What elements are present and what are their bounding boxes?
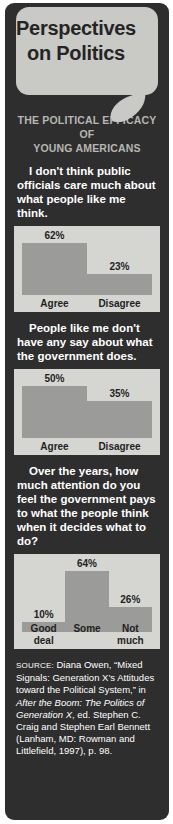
chart-1-bar-group-0: 62% xyxy=(22,230,87,295)
chart-3-axis-label-2: Not much xyxy=(109,623,152,647)
chart-2-bar-1 xyxy=(87,401,152,438)
chart-2-plot: 50% 35% xyxy=(22,373,152,438)
source-label: SOURCE: xyxy=(16,661,54,670)
infographic-container: Perspectives on Politics THE POLITICAL E… xyxy=(0,0,173,824)
chart-2-axis-label-1: Disagree xyxy=(87,441,152,453)
chart-3-bar-group-0: 10% xyxy=(22,558,65,632)
chart-2-bar-0 xyxy=(22,386,87,438)
chart-1-axis-label-1: Disagree xyxy=(87,298,152,310)
chart-3-axis: Good deal Some Not much xyxy=(22,623,152,647)
chart-1-bar-group-1: 23% xyxy=(87,230,152,295)
page-title-line-2: on Politics xyxy=(5,41,147,66)
dark-panel: Perspectives on Politics THE POLITICAL E… xyxy=(5,3,169,820)
chart-2-value-1: 35% xyxy=(109,388,129,400)
chart-2-axis: Agree Disagree xyxy=(22,441,152,453)
page-title-line-1: Perspectives xyxy=(5,16,147,41)
chart-2-value-0: 50% xyxy=(44,373,64,385)
chart-3-value-0: 10% xyxy=(34,609,54,621)
chart-3-plot: 10% 64% 26% xyxy=(22,558,152,632)
source-citation: SOURCE: Diana Owen, “Mixed Signals: Gene… xyxy=(5,649,169,764)
chart-3-axis-label-0: Good deal xyxy=(22,623,65,647)
chart-1: 62% 23% Agree Disagree xyxy=(14,226,160,312)
chart-3-bar-group-2: 26% xyxy=(109,558,152,632)
question-2: People like me don't have any say about … xyxy=(5,312,169,369)
chart-2-axis-label-0: Agree xyxy=(22,441,87,453)
question-3: Over the years, how much attention do yo… xyxy=(5,455,169,554)
chart-3-value-1: 64% xyxy=(77,558,97,570)
header: Perspectives on Politics xyxy=(5,3,169,115)
chart-3: 10% 64% 26% Good deal Some Not much xyxy=(14,554,160,649)
chart-3-axis-label-1: Some xyxy=(65,623,108,647)
chart-3-bar-group-1: 64% xyxy=(65,558,108,632)
question-1: I don't think public officials care much… xyxy=(5,155,169,226)
chart-1-plot: 62% 23% xyxy=(22,230,152,295)
chart-1-bar-1 xyxy=(87,274,152,295)
chart-1-axis-label-0: Agree xyxy=(22,298,87,310)
chart-3-value-2: 26% xyxy=(120,594,140,606)
subtitle-line-2: YOUNG AMERICANS xyxy=(15,141,159,155)
chart-1-bar-0 xyxy=(22,243,87,295)
chart-1-axis: Agree Disagree xyxy=(22,298,152,310)
chart-2: 50% 35% Agree Disagree xyxy=(14,369,160,455)
chart-1-value-0: 62% xyxy=(44,230,64,242)
chart-2-bar-group-0: 50% xyxy=(22,373,87,438)
chart-1-value-1: 23% xyxy=(109,261,129,273)
chart-2-bar-group-1: 35% xyxy=(87,373,152,438)
speech-bubble-tail-icon xyxy=(109,87,153,123)
page-title: Perspectives on Politics xyxy=(5,16,147,66)
